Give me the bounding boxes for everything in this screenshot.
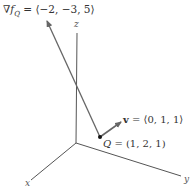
point-q-equals: =	[111, 138, 126, 149]
x-axis-label: x	[25, 179, 30, 188]
point-q-name: Q	[103, 138, 111, 149]
gradient-equals: =	[20, 3, 35, 15]
diagram-canvas	[0, 0, 193, 191]
gradient-vector-arrow	[47, 21, 100, 137]
direction-vector-arrow	[100, 122, 121, 137]
z-axis-label: z	[74, 20, 79, 29]
point-q-label: Q = (1, 2, 1)	[103, 139, 166, 149]
direction-vector-equals: =	[129, 114, 144, 125]
gradient-value: ⟨−2, −3, 5⟩	[35, 3, 94, 15]
z-axis	[76, 33, 77, 143]
gradient-symbol: ∇f	[3, 3, 14, 15]
y-axis-label: y	[184, 175, 189, 184]
direction-vector-value: ⟨0, 1, 1⟩	[144, 114, 184, 125]
gradient-label: ∇fQ = ⟨−2, −3, 5⟩	[3, 4, 95, 18]
x-axis	[31, 143, 76, 180]
point-q-dot	[98, 135, 102, 139]
direction-vector-label: v = ⟨0, 1, 1⟩	[123, 115, 183, 125]
point-q-value: (1, 2, 1)	[126, 138, 166, 149]
